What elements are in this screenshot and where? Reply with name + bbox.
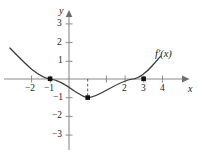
y-tick-label-neg1: −1 [53,93,63,103]
y-tick-label-neg2: −2 [52,111,62,121]
curve-label-f-prime: f′(x) [155,49,172,60]
y-axis [66,10,73,150]
graph-figure: −2 −1 2 3 4 3 2 1 −1 −2 −3 y x f′(x) [0,0,198,156]
x-tick-label-neg2: −2 [25,84,35,94]
y-tick-label-3: 3 [57,19,62,29]
x-tick-label-2: 2 [122,84,127,94]
coordinate-plane-svg [0,0,198,156]
y-tick-label-2: 2 [57,38,62,48]
point-marker-root-neg1 [48,77,53,82]
y-axis-label: y [59,6,63,16]
x-tick-label-4: 4 [160,84,165,94]
point-marker-vertex [85,95,90,100]
x-axis-label: x [188,84,192,94]
point-marker-root-3 [141,77,146,82]
x-tick-label-3: 3 [141,84,146,94]
y-tick-label-1: 1 [58,56,63,66]
y-tick-label-neg3: −3 [52,130,62,140]
